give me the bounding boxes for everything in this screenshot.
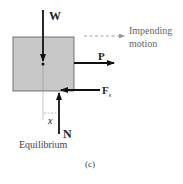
impending-label-line2: motion	[129, 39, 157, 49]
impending-label-line1: Impending	[129, 26, 172, 36]
center-of-mass-dot	[42, 63, 45, 66]
caption: (c)	[85, 160, 95, 169]
weight-label: W	[49, 10, 61, 22]
distance-label: x	[48, 116, 52, 126]
friction-subscript: s	[109, 92, 111, 98]
state-label: Equilibrium	[19, 140, 67, 150]
friction-letter: F	[102, 84, 109, 96]
push-label: P	[98, 51, 105, 62]
friction-label: Fs	[102, 85, 111, 98]
